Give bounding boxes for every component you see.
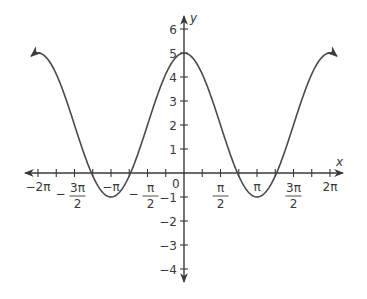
cosine-graph: 654321−1−2−3−4−2π−3π2−π−π2π2π3π22π x y 0 <box>0 0 367 299</box>
svg-text:π: π <box>217 181 224 195</box>
y-tick-label: −4 <box>159 263 177 277</box>
x-tick-label: 3π2 <box>286 181 302 211</box>
y-tick-label: 2 <box>169 119 177 133</box>
origin-label: 0 <box>172 177 180 191</box>
x-tick-label: 2π <box>323 180 338 194</box>
y-tick-label: 3 <box>169 95 177 109</box>
svg-text:−: − <box>55 187 65 201</box>
svg-text:3π: 3π <box>286 181 301 195</box>
x-tick-label: π2 <box>213 181 229 211</box>
x-tick-label: −π2 <box>128 181 158 211</box>
x-tick-label: −π <box>102 180 119 194</box>
svg-text:−2π: −2π <box>26 180 51 194</box>
y-axis-label: y <box>189 11 198 25</box>
x-tick-label: −3π2 <box>55 181 85 211</box>
x-axis-label: x <box>335 155 344 169</box>
svg-text:2π: 2π <box>323 180 338 194</box>
svg-text:2: 2 <box>147 197 155 211</box>
svg-text:π: π <box>147 181 154 195</box>
svg-text:2: 2 <box>217 197 225 211</box>
y-tick-label: 6 <box>169 23 177 37</box>
svg-text:2: 2 <box>74 197 82 211</box>
y-tick-label: 4 <box>169 71 177 85</box>
x-tick-label: π <box>253 180 260 194</box>
svg-text:3π: 3π <box>70 181 85 195</box>
y-tick-label: −1 <box>159 191 177 205</box>
y-tick-label: 1 <box>169 143 177 157</box>
y-tick-label: −3 <box>159 239 177 253</box>
svg-text:−π: −π <box>102 180 119 194</box>
svg-text:π: π <box>253 180 260 194</box>
x-tick-label: −2π <box>26 180 51 194</box>
svg-text:2: 2 <box>290 197 298 211</box>
svg-text:−: − <box>128 187 138 201</box>
y-tick-label: −2 <box>159 215 177 229</box>
